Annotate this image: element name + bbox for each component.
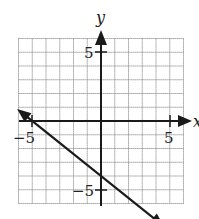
- x-axis-label: x: [193, 112, 199, 131]
- y-tick-label-5: 5: [84, 44, 94, 62]
- y-arrow-icon: [95, 30, 107, 45]
- x-axis: [19, 115, 192, 127]
- x-tick-label-5: 5: [164, 129, 174, 147]
- x-arrow-icon: [178, 115, 192, 127]
- y-axis-label: y: [95, 8, 106, 27]
- x-tick-label-neg5: −5: [13, 129, 35, 147]
- coordinate-plane: x y −5 5 5 −5: [0, 0, 199, 219]
- y-tick-label-neg5: −5: [72, 182, 94, 200]
